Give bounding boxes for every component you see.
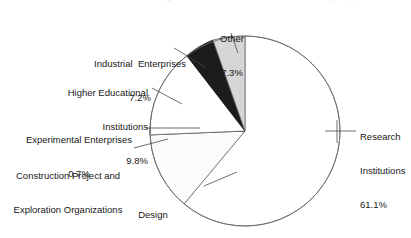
pie-chart-figure: 4.1 Characterization of the Types of Ins…: [0, 0, 411, 238]
pie-label-experimental-name: Experimental Enterprises: [16, 134, 142, 145]
pie-label-research-name1: Research: [360, 131, 410, 142]
pie-label-research-value: 61.1%: [360, 199, 410, 210]
pie-label-design-name1: Design: [98, 209, 208, 220]
pie-label-other-value: 7.3%: [198, 67, 266, 78]
pie-label-construction-name1: Construction Project and: [4, 170, 132, 181]
pie-label-research-institutions: Research Institutions 61.1%: [360, 109, 410, 232]
pie-label-research-name2: Institutions: [360, 165, 410, 176]
pie-label-higher-edu-name1: Higher Educational: [36, 87, 148, 98]
pie-label-other: Other 7.3%: [198, 11, 266, 101]
pie-label-design-organizations: Design Organizations 10.6%: [98, 187, 208, 238]
pie-label-other-name: Other: [198, 33, 266, 44]
